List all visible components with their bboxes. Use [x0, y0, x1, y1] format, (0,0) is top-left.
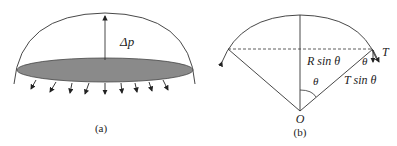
tension-component-label: T sin θ	[344, 73, 376, 87]
radius-component-label: R sin θ	[306, 54, 340, 68]
radius-left	[228, 49, 300, 111]
tension-arrow	[373, 50, 379, 62]
cap-arc	[222, 15, 376, 62]
caption-a: (a)	[95, 122, 108, 135]
origin-label: O	[296, 112, 305, 126]
panel-a: Δp (a)	[14, 13, 195, 135]
membrane-diagram: Δp (a) T θ R sin θ θ T sin θ O (b)	[0, 0, 397, 146]
edge-angle-label: θ	[362, 55, 368, 67]
membrane-disc	[17, 58, 193, 82]
angle-arc	[300, 90, 316, 97]
center-angle-label: θ	[313, 75, 319, 87]
panel-b: T θ R sin θ θ T sin θ O (b)	[222, 15, 390, 139]
tension-label: T	[382, 45, 390, 59]
pressure-label: Δp	[119, 34, 135, 49]
caption-b: (b)	[294, 126, 307, 139]
